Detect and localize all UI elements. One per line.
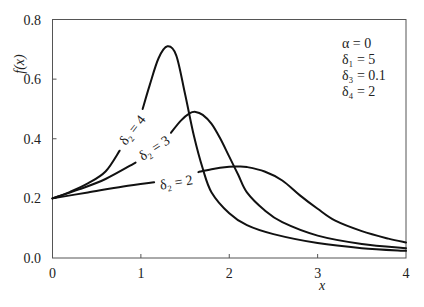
curve-label-delta2-4: δ₂ = 4 xyxy=(116,112,148,148)
x-axis-title: x xyxy=(318,278,326,293)
y-tick-label: 0.4 xyxy=(24,132,42,147)
x-tick-label: 2 xyxy=(226,266,233,281)
param-delta1: δ₁ = 5 xyxy=(342,52,375,67)
curve-label-delta2-3: δ₂ = 3 xyxy=(136,133,172,164)
y-tick-label: 0.2 xyxy=(24,191,42,206)
y-axis-title: f(x) xyxy=(12,54,28,74)
curve-delta2-4 xyxy=(53,151,120,199)
param-delta4: δ₄ = 2 xyxy=(342,84,375,99)
param-delta3: δ₃ = 0.1 xyxy=(342,68,386,83)
y-tick-label: 0.8 xyxy=(24,13,42,28)
curve-labels: δ₂ = 4 δ₂ = 3 δ₂ = 2 xyxy=(116,112,194,192)
density-chart: 0.00.20.40.60.8 01234 f(x) x δ₂ = 4 δ₂ =… xyxy=(0,0,424,307)
x-tick-label: 0 xyxy=(49,266,56,281)
curve-label-delta2-2: δ₂ = 2 xyxy=(159,172,194,193)
curve-delta2-2 xyxy=(53,182,155,198)
x-tick-label: 4 xyxy=(403,266,410,281)
param-alpha: α = 0 xyxy=(342,36,371,51)
y-axis: 0.00.20.40.60.8 xyxy=(24,13,57,267)
y-tick-label: 0.0 xyxy=(24,251,42,266)
x-tick-label: 1 xyxy=(137,266,144,281)
parameters-box: α = 0 δ₁ = 5 δ₃ = 0.1 δ₄ = 2 xyxy=(342,36,386,99)
